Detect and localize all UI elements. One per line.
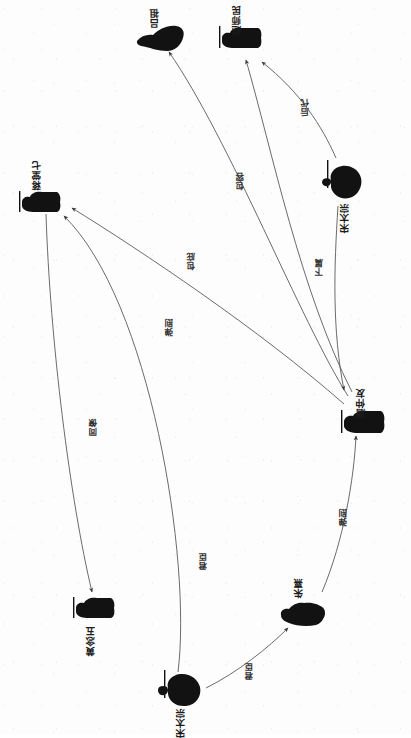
node-label-n7: 朱熹 [294,578,304,598]
node-n1[interactable] [134,22,186,56]
edge-label-xia-shu: 下属 [316,258,325,276]
node-n8[interactable] [152,668,206,710]
edge-path-n5-n1 [169,52,348,396]
person-silhouette-icon [318,158,368,206]
edge-path-n4-n6 [46,214,92,592]
node-n3[interactable] [318,158,368,206]
person-silhouette-icon [134,22,186,56]
node-label-n5: 唐仲友 [356,388,366,418]
edge-label-jun-chen-1: 君臣 [200,552,209,570]
edge-path-n3-n2 [262,62,336,158]
node-label-n8: 宋太宗 [176,708,186,738]
node-n7[interactable] [276,596,328,630]
node-label-n2: 赵师民 [232,5,242,35]
person-silhouette-icon [16,186,64,218]
node-n6[interactable] [70,592,118,624]
edge-path-n3-n5 [335,206,344,390]
person-silhouette-icon [152,668,206,710]
edge-label-bao-bi: 包庇 [188,252,197,270]
node-label-n4: 蒋堂七 [32,160,42,190]
edge-label-hou-dai: 后代 [302,98,311,116]
node-label-n3: 宋太宗 [340,203,350,233]
node-label-n1: 吕祖 [150,8,160,28]
person-silhouette-icon [276,596,328,630]
edge-label-tan-he-2: 弹刡 [340,508,349,526]
edge-path-n5-n4 [72,208,344,404]
edge-label-tan-he-1: 弹刡 [166,318,175,336]
edge-label-bao-rong: 包容 [237,172,246,190]
node-n4[interactable] [16,186,64,218]
edge-label-jun-chen-2: 君臣 [246,662,255,680]
edge-label-tong-liao: 同僚 [90,418,99,436]
node-label-n6: 黄念五 [86,626,96,656]
person-silhouette-icon [70,592,118,624]
